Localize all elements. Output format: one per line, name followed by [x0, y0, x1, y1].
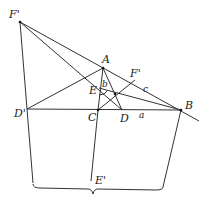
point-a [102, 67, 105, 70]
line-b-down [163, 110, 181, 187]
point-b [180, 109, 183, 112]
point-c [97, 109, 100, 112]
point-intersection [114, 93, 117, 96]
line-fprime-d [20, 22, 122, 110]
label-f: F' [129, 67, 141, 80]
label-b: B [184, 99, 193, 112]
label-c-side: c [143, 84, 148, 94]
geometry-diagram: F' A F' c b E D' C D a B E' [0, 0, 211, 201]
label-dprime: D' [13, 107, 26, 120]
point-fprime [19, 21, 22, 24]
label-a: A [101, 53, 110, 66]
line-fprime-dprime [20, 22, 27, 109]
line-dprime-down [27, 109, 33, 183]
line-fprime-b-extended [20, 22, 199, 121]
label-a-side: a [139, 110, 144, 120]
label-d: D [119, 112, 129, 125]
label-e: E [88, 84, 97, 97]
label-fprime-top: F' [8, 8, 20, 21]
diagram-svg: F' A F' c b E D' C D a B E' [0, 0, 211, 201]
line-dprime-b [27, 109, 181, 110]
label-c: C [88, 111, 97, 124]
label-b-angle: b [102, 79, 108, 89]
label-eprime: E' [94, 174, 106, 187]
